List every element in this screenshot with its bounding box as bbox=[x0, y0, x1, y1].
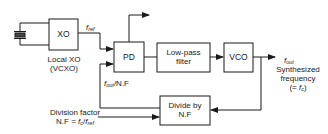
divider-label-line2: N.F bbox=[160, 110, 210, 119]
pd-aux-output bbox=[129, 15, 149, 42]
division-factor-label: Division factor N.F = fc/fref bbox=[40, 108, 110, 128]
feedback-label: fout/N.F bbox=[104, 79, 129, 90]
divider-label: Divide by N.F bbox=[160, 101, 210, 119]
lpf-label-line2: filter bbox=[157, 57, 210, 66]
synthesized-frequency-label: Synthesized frequency (= fc) bbox=[268, 65, 328, 94]
vco-label: VCO bbox=[224, 53, 253, 62]
lpf-label-line1: Low-pass bbox=[157, 48, 210, 57]
local-xo-line2: (VCXO) bbox=[34, 64, 94, 73]
division-line1: Division factor bbox=[40, 108, 110, 117]
fref-label: fref bbox=[86, 23, 95, 34]
crystal-icon bbox=[14, 23, 49, 45]
synth-line1: Synthesized bbox=[268, 65, 328, 74]
fref-line bbox=[78, 33, 113, 49]
division-line2: N.F = fc/fref bbox=[40, 117, 110, 128]
local-xo-line1: Local XO bbox=[34, 55, 94, 64]
lpf-label: Low-pass filter bbox=[157, 48, 210, 66]
xo-label: XO bbox=[49, 30, 78, 39]
synth-line3: (= fc) bbox=[268, 83, 328, 94]
local-xo-label: Local XO (VCXO) bbox=[34, 55, 94, 73]
pd-label: PD bbox=[114, 53, 144, 62]
synth-line2: frequency bbox=[268, 74, 328, 83]
divider-label-line1: Divide by bbox=[160, 101, 210, 110]
